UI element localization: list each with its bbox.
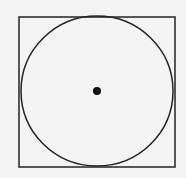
center-point bbox=[93, 87, 101, 95]
diagram-canvas bbox=[0, 0, 186, 178]
